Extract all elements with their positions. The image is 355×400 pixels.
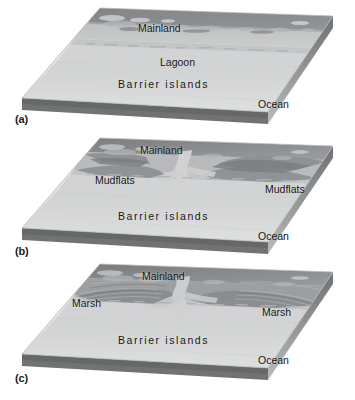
label-mainland-b: Mainland <box>140 144 183 156</box>
block-diagram-a-graphic <box>0 0 355 136</box>
label-lagoon-a: Lagoon <box>160 56 195 68</box>
label-ocean-a: Ocean <box>258 98 289 110</box>
label-mudflats-left-b: Mudflats <box>95 174 135 186</box>
panel-label-a: (a) <box>15 113 28 125</box>
label-mainland-a: Mainland <box>138 22 181 34</box>
label-marsh-right-c: Marsh <box>262 306 291 318</box>
block-diagram-panel-a: Mainland Lagoon Barrier islands Ocean (a… <box>0 0 355 136</box>
label-barrier-islands-a: Barrier islands <box>118 78 209 90</box>
label-barrier-islands-b: Barrier islands <box>118 210 209 222</box>
label-ocean-c: Ocean <box>258 354 289 366</box>
label-ocean-b: Ocean <box>258 230 289 242</box>
block-diagram-panel-c: Mainland Marsh Marsh Barrier islands Oce… <box>0 256 355 396</box>
label-barrier-islands-c: Barrier islands <box>118 334 209 346</box>
label-mainland-c: Mainland <box>142 270 185 282</box>
panel-label-c: (c) <box>15 372 28 384</box>
coastal-evolution-figure: Mainland Lagoon Barrier islands Ocean (a… <box>0 0 355 400</box>
block-diagram-panel-b: Mainland Mudflats Mudflats Barrier islan… <box>0 126 355 266</box>
label-mudflats-right-b: Mudflats <box>265 183 305 195</box>
panel-label-b: (b) <box>15 245 28 257</box>
label-marsh-left-c: Marsh <box>72 297 101 309</box>
